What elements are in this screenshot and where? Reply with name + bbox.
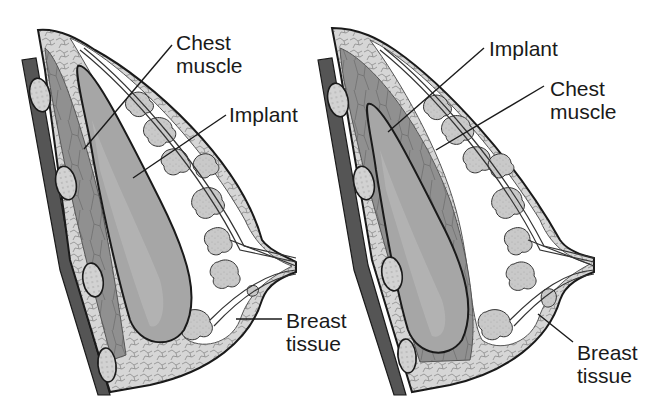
label-chest-muscle-left: Chest muscle — [176, 31, 243, 77]
left-panel — [22, 30, 296, 395]
label-implant-left: Implant — [229, 103, 298, 126]
label-chest-muscle-right: Chest muscle — [550, 77, 617, 123]
label-implant-right: Implant — [489, 37, 558, 60]
label-breast-tissue-left: Breast tissue — [286, 309, 347, 355]
label-breast-tissue-right: Breast tissue — [577, 341, 638, 387]
